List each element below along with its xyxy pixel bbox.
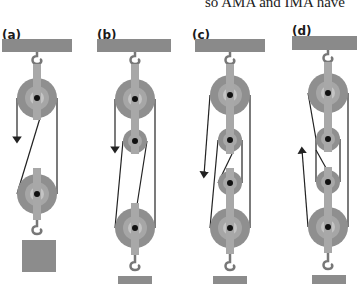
ceiling-bar xyxy=(292,36,357,50)
hook-icon xyxy=(131,255,140,270)
load-weight xyxy=(22,240,56,272)
hook-icon xyxy=(226,52,235,64)
hook-icon xyxy=(324,50,333,62)
hook-icon xyxy=(33,52,42,64)
panel-d xyxy=(292,36,357,284)
panel-a xyxy=(2,39,72,272)
load-weight xyxy=(312,275,346,284)
hook-icon xyxy=(226,254,235,270)
load-weight xyxy=(213,276,247,284)
ceiling-bar xyxy=(97,39,171,52)
hook-icon xyxy=(324,253,333,269)
pulley-systems-diagram xyxy=(0,0,357,284)
hook-icon xyxy=(33,220,42,234)
hook-icon xyxy=(131,52,140,64)
panel-c xyxy=(195,39,265,284)
ceiling-bar xyxy=(2,39,72,52)
ceiling-bar xyxy=(195,39,265,52)
load-weight xyxy=(118,276,152,284)
panel-b xyxy=(97,39,171,284)
